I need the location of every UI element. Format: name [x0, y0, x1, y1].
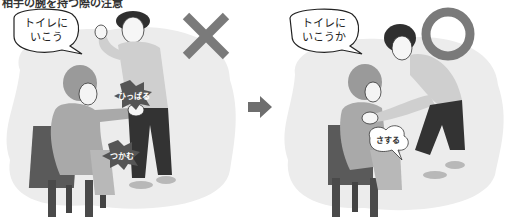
action-label-rub: さする: [368, 134, 408, 145]
panel-good: トイレに いこうか さする: [270, 0, 512, 217]
action-label-grab: つかむ: [102, 150, 142, 161]
speech-bubble-bad: トイレに いこう: [16, 17, 76, 45]
action-label-pull: ひっぱる: [114, 90, 154, 101]
speech-bubble-good: トイレに いこうか: [294, 17, 354, 45]
panel-bad: トイレに いこう ひっぱる つかむ: [0, 0, 240, 217]
